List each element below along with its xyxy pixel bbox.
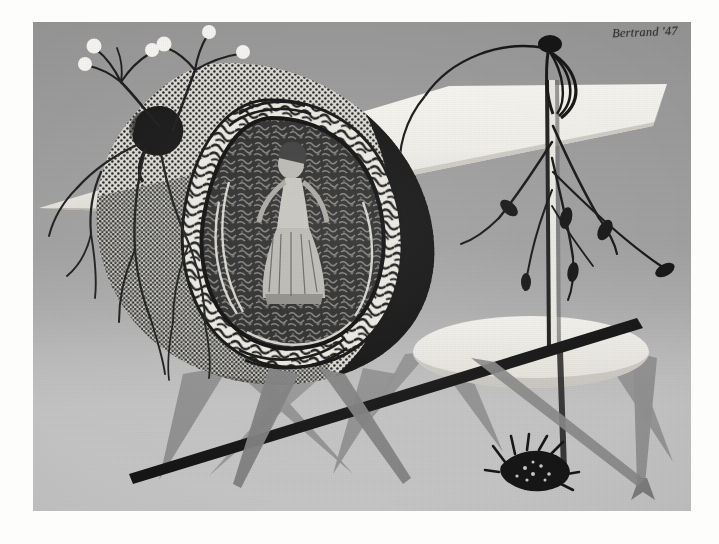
artwork-plate: Bertrand '47 (33, 22, 691, 511)
vignette (33, 22, 691, 511)
artwork-page: Bertrand '47 (0, 0, 719, 544)
artist-signature: Bertrand '47 (612, 24, 678, 42)
